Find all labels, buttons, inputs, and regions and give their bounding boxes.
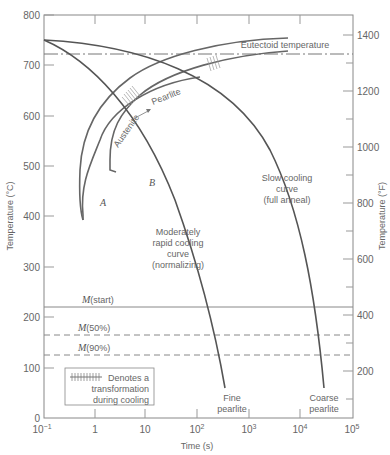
y-tick: 100 bbox=[23, 363, 40, 374]
svg-text:Moderately: Moderately bbox=[156, 227, 201, 237]
y-tick: 800 bbox=[23, 10, 40, 21]
left-tick-labels: 800 700 600 500 400 300 200 100 0 bbox=[23, 10, 40, 424]
x-tick: 10 bbox=[139, 424, 151, 435]
coarse-pearlite-label: Coarse pearlite bbox=[309, 393, 339, 414]
y-tick: 700 bbox=[23, 60, 40, 71]
top-ticks bbox=[95, 15, 300, 418]
cct-diagram: 800 700 600 500 400 300 200 100 0 1400 1… bbox=[0, 0, 390, 455]
x-tick: 102 bbox=[189, 423, 204, 435]
y-tick-right: 1400 bbox=[357, 30, 380, 41]
y-tick: 0 bbox=[34, 413, 40, 424]
x-tick-labels: 10−1 1 10 102 103 104 105 bbox=[32, 423, 359, 435]
svg-text:(normalizing): (normalizing) bbox=[152, 260, 204, 270]
svg-text:transformation: transformation bbox=[91, 384, 149, 394]
normalizing-label: Moderately rapid cooling curve (normaliz… bbox=[152, 227, 204, 270]
left-ticks bbox=[44, 15, 54, 368]
x-tick: 104 bbox=[292, 423, 307, 435]
y-tick-right: 1000 bbox=[357, 142, 380, 153]
y-tick-right: 200 bbox=[357, 366, 374, 377]
y-tick: 600 bbox=[23, 111, 40, 122]
svg-text:curve: curve bbox=[167, 249, 189, 259]
point-b-label: B bbox=[149, 177, 155, 188]
svg-text:rapid cooling: rapid cooling bbox=[152, 238, 203, 248]
svg-text:during cooling: during cooling bbox=[93, 395, 149, 405]
full-anneal-cooling-curve bbox=[44, 40, 324, 388]
svg-text:Fine: Fine bbox=[223, 393, 241, 403]
y-tick-right: 800 bbox=[357, 198, 374, 209]
normalizing-cooling-curve bbox=[44, 40, 225, 388]
y-tick: 500 bbox=[23, 161, 40, 172]
svg-text:curve: curve bbox=[276, 184, 298, 194]
m-50-label: M(50%) bbox=[77, 322, 110, 333]
y-axis-label-left: Temperature (°C) bbox=[5, 181, 15, 250]
x-tick: 103 bbox=[241, 423, 256, 435]
svg-text:pearlite: pearlite bbox=[217, 404, 247, 414]
svg-text:Slow cooling: Slow cooling bbox=[262, 173, 313, 183]
y-tick: 400 bbox=[23, 211, 40, 222]
y-axis-label-right: Temperature (°F) bbox=[377, 182, 387, 250]
point-a-label: A bbox=[99, 197, 107, 208]
slow-cooling-label: Slow cooling curve (full anneal) bbox=[262, 173, 313, 205]
m-90-label: M(90%) bbox=[77, 342, 110, 353]
svg-text:Denotes a: Denotes a bbox=[108, 373, 149, 383]
x-axis-label: Time (s) bbox=[181, 441, 214, 451]
transformation-finish-path bbox=[110, 51, 288, 172]
y-tick: 200 bbox=[23, 312, 40, 323]
y-tick: 300 bbox=[23, 262, 40, 273]
svg-text:(full anneal): (full anneal) bbox=[263, 195, 310, 205]
right-ticks bbox=[343, 35, 353, 399]
svg-text:pearlite: pearlite bbox=[309, 404, 339, 414]
x-tick: 10−1 bbox=[32, 423, 51, 435]
austenite-label: Austenite bbox=[111, 113, 141, 149]
arrow-head-icon bbox=[146, 109, 151, 113]
y-tick-right: 1200 bbox=[357, 86, 380, 97]
fine-pearlite-label: Fine pearlite bbox=[217, 393, 247, 414]
x-tick: 105 bbox=[344, 423, 359, 435]
y-tick-right: 400 bbox=[357, 310, 374, 321]
svg-text:Coarse: Coarse bbox=[309, 393, 338, 403]
ab-dashed-connector bbox=[83, 172, 116, 220]
m-start-label: M(start) bbox=[81, 294, 114, 305]
legend: Denotes a transformation during cooling bbox=[65, 368, 154, 405]
x-tick: 1 bbox=[92, 424, 98, 435]
y-tick-right: 600 bbox=[357, 254, 374, 265]
eutectoid-label: Eutectoid temperature bbox=[241, 40, 330, 50]
plot-frame bbox=[44, 15, 353, 418]
